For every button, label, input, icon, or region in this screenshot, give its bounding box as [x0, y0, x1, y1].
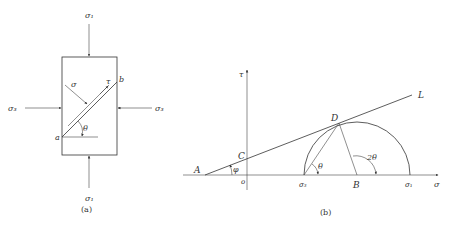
panel-b: σ τ o A C L φ D B θ 2θ σ₃ σ₁ (b)	[183, 70, 440, 217]
sigma1-label-b: σ₁	[405, 181, 413, 189]
stress-element	[62, 57, 117, 155]
strength-envelope-AL	[205, 95, 412, 175]
sigma1-top-label: σ₁	[85, 11, 94, 20]
sigma3-left-label: σ₃	[8, 104, 17, 113]
phi-arc	[230, 165, 232, 175]
point-b-label: b	[119, 75, 124, 84]
point-C-label: C	[238, 151, 245, 161]
sigma3-label-b: σ₃	[299, 181, 307, 189]
phi-label: φ	[233, 165, 239, 174]
panel-a: σ₁ σ₁ σ₃ σ₃ σ τ b a θ (a)	[8, 11, 164, 214]
line-D-B	[339, 123, 357, 175]
tau-label: τ	[106, 77, 111, 86]
theta-label: θ	[83, 124, 88, 133]
sigma-label: σ	[71, 80, 77, 89]
sigma-axis-label: σ	[434, 180, 440, 189]
point-L-label: L	[417, 90, 424, 100]
theta-label-b: θ	[318, 162, 323, 171]
tau-axis-label: τ	[239, 70, 244, 79]
point-a-label: a	[55, 133, 60, 142]
point-A-label: A	[193, 165, 201, 175]
point-B-label: B	[352, 180, 360, 190]
two-theta-label: 2θ	[366, 153, 377, 162]
theta-arc	[78, 121, 82, 136]
sigma3-right-label: σ₃	[155, 104, 164, 113]
caption-b: (b)	[320, 208, 331, 217]
shear-stress-arrow	[100, 86, 108, 94]
caption-a: (a)	[81, 205, 92, 214]
plane-ab	[62, 82, 117, 137]
sigma1-bottom-label: σ₁	[85, 194, 94, 203]
mohr-coulomb-diagram: σ₁ σ₁ σ₃ σ₃ σ τ b a θ (a) σ τ	[0, 0, 451, 232]
point-D-label: D	[330, 113, 338, 123]
origin-label: o	[241, 178, 245, 186]
